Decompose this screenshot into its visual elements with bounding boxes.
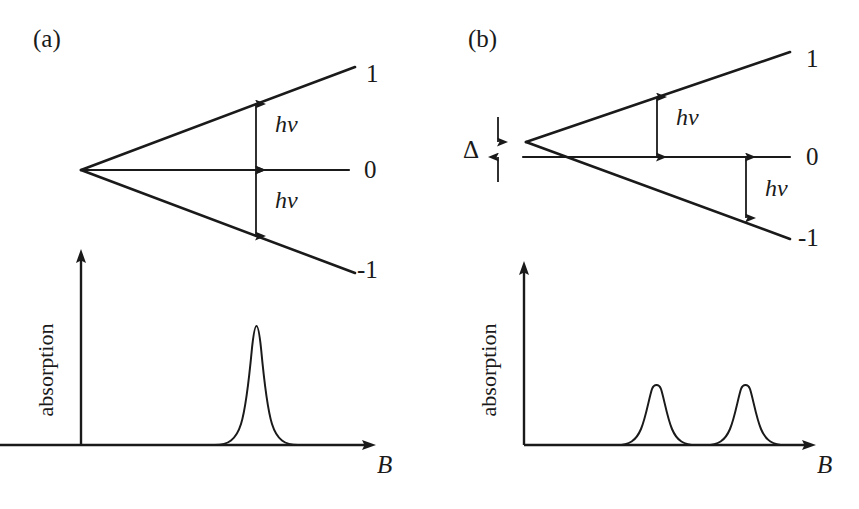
panel-b-transition-label-upper: hν (676, 105, 699, 129)
panel-a-level-label-upper: 1 (366, 61, 379, 86)
energy-line-upper-b (526, 52, 790, 142)
panel-b-ylabel: absorption (476, 324, 502, 417)
panel-b-level-label-middle: 0 (806, 144, 819, 169)
panel-b-ylabel-wrap: absorption (409, 357, 569, 383)
panel-b-absorption-plot (519, 261, 816, 450)
panel-a-xlabel: B (377, 452, 392, 477)
energy-line-lower-a (81, 170, 355, 273)
panel-a-transition-label-upper: hν (275, 112, 298, 136)
absorption-curve-a (90, 326, 358, 445)
absorption-curve-b (533, 385, 798, 445)
panel-b-transition-label-lower: hν (765, 176, 788, 200)
panel-a-level-label-lower: -1 (357, 257, 378, 282)
panel-b-level-label-lower: -1 (798, 225, 819, 250)
panel-b-delta-label: Δ (463, 137, 479, 162)
panel-a-ylabel: absorption (33, 324, 59, 417)
figure-root: (a) 1 0 -1 hν hν absorption B (b) Δ 1 0 … (0, 0, 859, 509)
panel-b-xlabel: B (817, 452, 832, 477)
figure-canvas (0, 0, 859, 509)
panel-a-energy-diagram (81, 67, 355, 273)
panel-a-transition-label-lower: hν (275, 188, 298, 212)
panel-a-ylabel-wrap: absorption (0, 357, 126, 383)
energy-line-upper-a (81, 67, 355, 170)
panel-a-tag: (a) (33, 26, 61, 51)
panel-b-tag: (b) (468, 26, 497, 51)
panel-a-level-label-middle: 0 (364, 157, 377, 182)
panel-b-level-label-upper: 1 (806, 46, 819, 71)
panel-b-energy-diagram (498, 52, 790, 239)
